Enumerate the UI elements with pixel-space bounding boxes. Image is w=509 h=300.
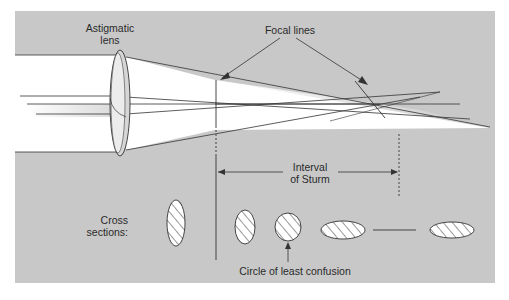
focal-lines-label: Focal lines bbox=[250, 24, 330, 36]
incoming-beam bbox=[15, 55, 121, 152]
cross-section-3 bbox=[321, 221, 365, 239]
circle-least-confusion-label: Circle of least confusion bbox=[220, 265, 370, 277]
diagram: Astigmatic lens Focal lines Interval of … bbox=[0, 0, 509, 300]
cross-section-1 bbox=[167, 200, 185, 246]
interval-of-sturm-label: Interval of Sturm bbox=[280, 161, 340, 185]
cross-sections-label: Cross sections: bbox=[70, 214, 128, 238]
cross-section-circle bbox=[275, 213, 301, 241]
diagram-canvas bbox=[0, 0, 509, 300]
cross-section-2 bbox=[235, 210, 255, 244]
cross-section-4 bbox=[430, 222, 474, 238]
lens-label: Astigmatic lens bbox=[78, 22, 142, 46]
astigmatic-lens bbox=[110, 50, 130, 156]
